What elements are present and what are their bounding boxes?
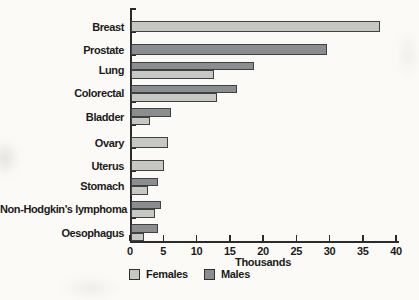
x-axis-tick <box>395 235 397 241</box>
bar-males-bladder <box>131 108 171 117</box>
x-axis <box>130 241 399 243</box>
x-tick-label: 35 <box>351 245 375 257</box>
category-label: Lung <box>0 63 124 77</box>
x-tick-label: 40 <box>384 245 408 257</box>
y-axis-tick <box>130 8 136 10</box>
legend-label-males: Males <box>221 268 250 280</box>
x-axis-tick <box>163 235 165 241</box>
bar-females-breast <box>131 21 380 32</box>
bar-females-bladder <box>131 117 150 126</box>
category-label: Uterus <box>0 159 124 173</box>
category-label: Ovary <box>0 136 124 150</box>
x-axis-tick <box>262 235 264 241</box>
legend-swatch-males <box>204 269 215 280</box>
chart-page: Thousands Females Males 0510152025303540… <box>0 0 419 300</box>
x-tick-label: 25 <box>284 245 308 257</box>
bar-males-colorectal <box>131 85 237 94</box>
x-tick-label: 0 <box>118 245 142 257</box>
bar-females-lung <box>131 70 214 79</box>
x-axis-tick <box>362 235 364 241</box>
category-label: Colorectal <box>0 86 124 100</box>
x-tick-label: 30 <box>318 245 342 257</box>
x-tick-label: 5 <box>151 245 175 257</box>
x-axis-tick <box>329 235 331 241</box>
bar-females-stomach <box>131 186 148 195</box>
x-axis-tick <box>229 235 231 241</box>
bar-females-oesophagus <box>131 233 144 242</box>
x-axis-tick <box>196 235 198 241</box>
bar-males-lung <box>131 62 254 71</box>
bar-males-prostate <box>131 44 327 55</box>
x-tick-label: 20 <box>251 245 275 257</box>
category-label: Prostate <box>0 43 124 57</box>
legend-swatch-females <box>129 269 140 280</box>
x-tick-label: 15 <box>218 245 242 257</box>
category-label: Oesophagus <box>0 226 124 240</box>
x-tick-label: 10 <box>185 245 209 257</box>
legend-label-females: Females <box>146 268 188 280</box>
bar-females-ovary <box>131 137 168 148</box>
bar-males-oesophagus <box>131 224 158 233</box>
x-axis-title: Thousands <box>203 256 323 268</box>
bar-females-non-hodgkin-s-lymphoma <box>131 209 155 218</box>
bar-females-colorectal <box>131 93 217 102</box>
bar-chart: Thousands Females Males 0510152025303540… <box>0 0 419 300</box>
category-label: Stomach <box>0 179 124 193</box>
bar-females-uterus <box>131 160 164 171</box>
bar-males-stomach <box>131 178 158 187</box>
legend: Females Males <box>129 268 250 280</box>
category-label: Bladder <box>0 110 124 124</box>
bar-males-non-hodgkin-s-lymphoma <box>131 201 161 210</box>
category-label: Non-Hodgkin's lymphoma <box>0 202 124 216</box>
x-axis-tick <box>296 235 298 241</box>
category-label: Breast <box>0 20 124 34</box>
